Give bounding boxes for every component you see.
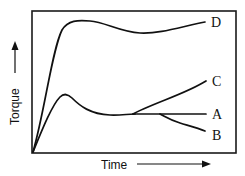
y-axis-arrow-up-icon <box>12 41 19 50</box>
label-c: C <box>212 74 221 89</box>
torque-time-diagram: D C A B Torque Time <box>0 0 245 176</box>
y-axis-label-group: Torque <box>8 41 22 125</box>
curve-b <box>160 114 205 131</box>
curve-abc-trunk <box>33 94 135 152</box>
curve-d <box>33 21 205 152</box>
label-b: B <box>212 128 221 143</box>
x-axis-arrow-right-icon <box>202 161 211 168</box>
y-axis-label: Torque <box>8 88 22 125</box>
label-d: D <box>211 15 221 30</box>
label-a: A <box>212 107 223 122</box>
curve-c <box>133 81 206 114</box>
x-axis-label-group: Time <box>101 158 211 172</box>
x-axis-label: Time <box>101 158 128 172</box>
